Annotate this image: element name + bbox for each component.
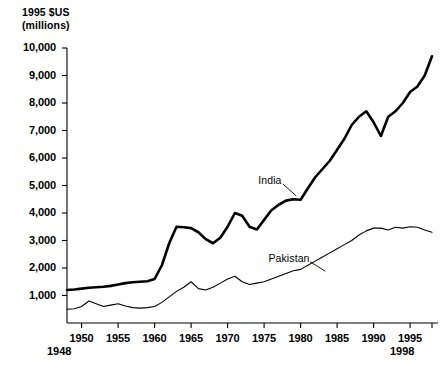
line-chart: 1995 $US(millions) 10,0009,0008,0007,000… <box>0 0 443 371</box>
leader-line-india <box>283 184 296 196</box>
leader-line-pakistan <box>310 262 325 272</box>
series-line-pakistan <box>67 227 432 310</box>
figure-caption <box>4 356 440 370</box>
plot-area <box>0 0 443 371</box>
series-line-india <box>67 56 432 290</box>
